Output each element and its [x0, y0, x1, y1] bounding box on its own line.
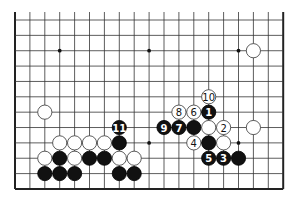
go-board-diagram: 1086197245311 — [0, 0, 294, 201]
stone-circle — [68, 151, 82, 165]
stone-circle — [68, 136, 82, 150]
black-stone — [202, 136, 216, 150]
go-board: 1086197245311 — [0, 0, 294, 201]
stone-circle — [202, 136, 216, 150]
black-stone — [231, 151, 245, 165]
star-point — [237, 141, 241, 145]
white-stone: 4 — [187, 136, 201, 150]
black-stone — [187, 120, 201, 134]
stone-circle — [217, 136, 231, 150]
star-point — [237, 49, 241, 53]
black-stone — [82, 151, 96, 165]
white-stone — [68, 136, 82, 150]
stone-circle — [68, 167, 82, 181]
move-number-label: 3 — [220, 153, 227, 164]
white-stone — [38, 105, 52, 119]
stone-circle — [187, 120, 201, 134]
white-stone — [38, 151, 52, 165]
stone-circle — [38, 105, 52, 119]
move-number-label: 8 — [176, 107, 182, 118]
star-point — [147, 49, 151, 53]
stone-circle — [231, 151, 245, 165]
white-stone — [246, 44, 260, 58]
stone-circle — [38, 167, 52, 181]
stone-circle — [112, 167, 126, 181]
stone-circle — [202, 120, 216, 134]
stone-circle — [53, 151, 67, 165]
move-number-label: 6 — [191, 107, 197, 118]
stone-circle — [246, 44, 260, 58]
stone-circle — [82, 136, 96, 150]
stone-circle — [97, 151, 111, 165]
star-point — [147, 141, 151, 145]
white-stone — [217, 136, 231, 150]
stone-circle — [53, 167, 67, 181]
black-stone — [53, 167, 67, 181]
black-stone: 7 — [172, 120, 186, 134]
stone-circle — [112, 151, 126, 165]
stone-circle — [53, 136, 67, 150]
stone-circle — [97, 136, 111, 150]
black-stone — [53, 151, 67, 165]
black-stone — [112, 167, 126, 181]
move-number-label: 2 — [220, 123, 226, 134]
white-stone — [246, 120, 260, 134]
white-stone — [68, 151, 82, 165]
white-stone — [127, 151, 141, 165]
stone-circle — [246, 120, 260, 134]
white-stone: 8 — [172, 105, 186, 119]
black-stone: 1 — [202, 105, 216, 119]
move-number-label: 10 — [202, 92, 215, 103]
white-stone — [97, 136, 111, 150]
stone-circle — [127, 167, 141, 181]
move-number-label: 5 — [205, 153, 212, 164]
black-stone: 5 — [202, 151, 216, 165]
move-number-label: 9 — [161, 123, 168, 134]
white-stone — [202, 120, 216, 134]
black-stone: 9 — [157, 120, 171, 134]
stone-circle — [127, 151, 141, 165]
move-number-label: 7 — [175, 123, 182, 134]
white-stone: 2 — [217, 120, 231, 134]
white-stone — [53, 136, 67, 150]
white-stone — [112, 151, 126, 165]
black-stone — [68, 167, 82, 181]
black-stone — [127, 167, 141, 181]
black-stone — [38, 167, 52, 181]
black-stone: 11 — [112, 120, 126, 134]
star-point — [58, 49, 62, 53]
black-stone — [112, 136, 126, 150]
black-stone — [97, 151, 111, 165]
move-number-label: 1 — [205, 107, 212, 118]
white-stone: 6 — [187, 105, 201, 119]
white-stone: 10 — [202, 90, 216, 104]
move-number-label: 11 — [112, 123, 126, 134]
stone-circle — [38, 151, 52, 165]
black-stone: 3 — [217, 151, 231, 165]
white-stone — [82, 136, 96, 150]
stone-circle — [112, 136, 126, 150]
stone-circle — [82, 151, 96, 165]
move-number-label: 4 — [191, 138, 197, 149]
